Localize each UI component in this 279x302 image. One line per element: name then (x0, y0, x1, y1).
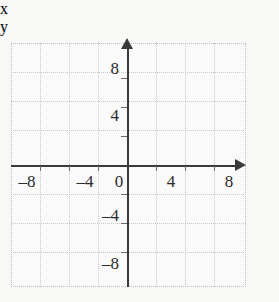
y-tick-label-neg4: –4 (93, 207, 119, 224)
coordinate-plane-figure: x y –8 –4 0 4 8 8 4 –4 –8 (0, 0, 279, 302)
x-axis-tick (98, 166, 99, 171)
origin-label: 0 (115, 173, 124, 190)
x-axis-line (11, 165, 240, 167)
y-axis-tick (121, 252, 127, 253)
x-tick-label-8: 8 (225, 173, 234, 190)
y-tick-label-4: 4 (103, 107, 119, 124)
y-axis-tick (121, 78, 127, 79)
x-axis-tick (214, 166, 215, 171)
x-axis-tick (69, 166, 70, 171)
x-axis-tick (185, 166, 186, 171)
y-tick-label-8: 8 (103, 60, 119, 77)
y-axis-arrowhead (121, 38, 133, 49)
y-axis-label: y (0, 18, 279, 36)
x-axis-arrowhead (235, 159, 246, 171)
y-axis-tick (121, 136, 127, 137)
x-tick-label-neg8: –8 (19, 173, 36, 190)
y-tick-label-neg8: –8 (93, 255, 119, 272)
x-axis-tick (156, 166, 157, 171)
y-axis-tick (121, 107, 127, 108)
y-axis-tick (121, 194, 127, 195)
x-tick-label-neg4: –4 (77, 173, 94, 190)
x-tick-label-4: 4 (167, 173, 176, 190)
x-axis-label: x (0, 0, 279, 18)
x-axis-tick (40, 166, 41, 171)
y-axis-line (127, 48, 129, 287)
y-axis-tick (121, 223, 127, 224)
